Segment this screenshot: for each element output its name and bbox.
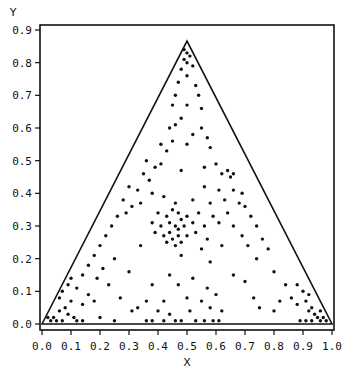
y-tick-label: 0.3: [12, 220, 32, 233]
data-point: [145, 319, 148, 322]
x-tick-label: 0.0: [32, 340, 52, 353]
data-point: [255, 257, 258, 260]
data-point: [95, 277, 98, 280]
data-point: [240, 192, 243, 195]
data-point: [301, 290, 304, 293]
x-tick-label: 0.2: [90, 340, 110, 353]
data-point: [153, 231, 156, 234]
data-point: [185, 103, 188, 106]
data-point: [249, 215, 252, 218]
data-point: [159, 162, 162, 165]
data-point: [206, 237, 209, 240]
data-point: [278, 299, 281, 302]
data-point: [226, 169, 229, 172]
data-point: [180, 117, 183, 120]
data-point: [162, 319, 165, 322]
data-point: [313, 313, 316, 316]
data-point: [191, 198, 194, 201]
data-point: [159, 224, 162, 227]
y-tick-label: 0.9: [12, 24, 32, 37]
data-point: [156, 211, 159, 214]
data-point: [162, 299, 165, 302]
data-point: [168, 273, 171, 276]
data-point: [119, 296, 122, 299]
data-point: [180, 254, 183, 257]
data-point: [81, 303, 84, 306]
data-point: [145, 159, 148, 162]
data-point: [180, 169, 183, 172]
data-point: [284, 283, 287, 286]
data-point: [63, 306, 66, 309]
data-point: [145, 299, 148, 302]
data-point: [246, 244, 249, 247]
data-point: [177, 81, 180, 84]
x-tick-label: 0.9: [293, 340, 313, 353]
plot-frame: [40, 25, 334, 330]
data-point: [52, 316, 55, 319]
data-point: [148, 179, 151, 182]
data-point: [75, 319, 78, 322]
data-point: [171, 139, 174, 142]
data-point: [136, 306, 139, 309]
data-point: [151, 192, 154, 195]
data-point: [139, 244, 142, 247]
data-point: [214, 162, 217, 165]
data-point: [232, 224, 235, 227]
data-point: [58, 296, 61, 299]
data-point: [272, 270, 275, 273]
data-point: [188, 309, 191, 312]
y-tick-label: 0.1: [12, 285, 32, 298]
data-point: [185, 143, 188, 146]
data-point: [162, 234, 165, 237]
data-point: [290, 296, 293, 299]
data-point: [211, 215, 214, 218]
data-point: [75, 286, 78, 289]
y-tick-label: 0.2: [12, 253, 32, 266]
data-point: [220, 172, 223, 175]
data-point: [165, 149, 168, 152]
data-point: [104, 234, 107, 237]
data-point: [319, 319, 322, 322]
data-point: [151, 221, 154, 224]
data-point: [185, 51, 188, 54]
data-point: [232, 188, 235, 191]
data-point: [310, 306, 313, 309]
data-point: [272, 309, 275, 312]
data-point: [194, 84, 197, 87]
data-point: [220, 309, 223, 312]
data-point: [180, 68, 183, 71]
data-point: [101, 267, 104, 270]
data-point: [127, 185, 130, 188]
data-point: [316, 316, 319, 319]
data-point: [87, 264, 90, 267]
data-point: [165, 241, 168, 244]
x-tick-label: 0.4: [148, 340, 168, 353]
y-tick-label: 0.4: [12, 187, 32, 200]
data-point: [258, 306, 261, 309]
data-point: [177, 234, 180, 237]
data-point: [243, 205, 246, 208]
data-point: [206, 136, 209, 139]
data-point: [188, 54, 191, 57]
data-point: [174, 319, 177, 322]
data-point: [197, 211, 200, 214]
data-point: [203, 319, 206, 322]
data-point: [191, 277, 194, 280]
data-point: [194, 319, 197, 322]
data-point: [61, 290, 64, 293]
data-point: [191, 221, 194, 224]
data-point: [298, 319, 301, 322]
triangle-boundary: [42, 41, 332, 324]
x-tick-label: 0.3: [119, 340, 139, 353]
data-point: [238, 201, 241, 204]
data-point: [180, 241, 183, 244]
data-point: [107, 283, 110, 286]
data-point: [66, 283, 69, 286]
data-point: [220, 244, 223, 247]
data-point: [211, 319, 214, 322]
data-point: [177, 283, 180, 286]
data-point: [113, 257, 116, 260]
data-point: [252, 296, 255, 299]
data-point: [46, 316, 49, 319]
data-point: [98, 244, 101, 247]
